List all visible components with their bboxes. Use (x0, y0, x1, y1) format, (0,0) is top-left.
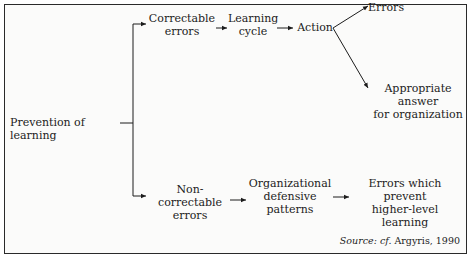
node-organizational-defensive-patterns: Organizational defensive patterns (248, 177, 332, 216)
source-prefix: Source: cf. (340, 235, 392, 246)
source-caption: Source: cf. Argyris, 1990 (300, 234, 460, 247)
root-node: Prevention of learning (10, 116, 122, 142)
node-appropriate-answer: Appropriate answer for organization (366, 82, 470, 121)
node-errors: Errors (366, 1, 406, 14)
node-correctable-errors: Correctable errors (148, 12, 216, 38)
node-errors-prevent-learning: Errors which prevent higher-level learni… (350, 177, 460, 229)
node-learning-cycle: Learning cycle (228, 12, 278, 38)
node-action: Action (296, 21, 334, 34)
source-text: Argyris, 1990 (394, 235, 460, 246)
node-non-correctable-errors: Non-correctable errors (148, 183, 232, 222)
